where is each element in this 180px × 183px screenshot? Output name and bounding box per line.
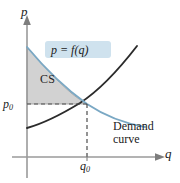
figure-canvas <box>0 0 180 183</box>
p0-subscript: 0 <box>9 103 13 112</box>
function-label-rhs: f(q) <box>71 43 88 57</box>
q0-tick-label: q0 <box>80 159 90 174</box>
consumer-surplus-figure: p = f(q) p q p0 q0 CS Demand curve <box>0 0 180 183</box>
q0-subscript: 0 <box>86 165 90 174</box>
cs-region-label: CS <box>40 72 55 87</box>
p-axis-label: p <box>21 4 28 20</box>
demand-label-line-2: curve <box>113 133 154 146</box>
q-axis-label: q <box>165 146 172 162</box>
p0-tick-label: p0 <box>3 97 13 112</box>
function-label: p = f(q) <box>51 43 88 58</box>
demand-curve-label: Demand curve <box>113 120 154 146</box>
q-axis-arrow-icon <box>155 153 165 161</box>
function-label-eq: = <box>57 43 71 57</box>
